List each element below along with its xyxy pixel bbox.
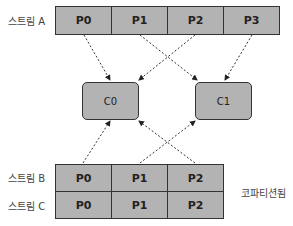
copartitioned-label: 코파티션됨 [241,185,286,200]
stream-a-p1: P1 [112,7,168,34]
stream-b-p1: P1 [112,165,168,192]
stream-b-partitions: P0 P1 P2 [55,164,224,192]
stream-a-partitions: P0 P1 P2 P3 [55,6,280,35]
stream-a-label: 스트림 A [8,13,45,28]
stream-b-label: 스트림 B [8,170,45,185]
arrow-a-p3-to-c1 [225,35,252,80]
stream-c-p1: P1 [112,192,168,218]
arrow-a-p0-to-c0 [84,35,110,80]
stream-c-p2: P2 [168,192,223,218]
stream-c-label: 스트림 C [8,198,45,213]
stream-c-partitions: P0 P1 P2 [55,191,224,219]
arrow-a-p2-to-c0 [139,35,195,80]
arrow-b-p0-to-c0 [83,121,110,163]
stream-a-p3: P3 [224,7,279,34]
stream-b-p0: P0 [56,165,112,192]
consumer-c1: C1 [195,82,252,120]
stream-b-p2: P2 [168,165,223,192]
stream-a-p2: P2 [168,7,224,34]
arrow-a-p1-to-c1 [140,35,197,80]
stream-c-p0: P0 [56,192,112,218]
consumer-c0: C0 [82,82,139,120]
stream-a-p0: P0 [56,7,112,34]
arrow-b-p1-to-c1 [140,121,195,163]
arrow-b-p2-to-c0 [139,121,195,163]
